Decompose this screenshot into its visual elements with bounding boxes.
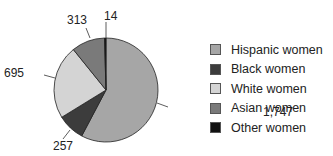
legend-label: Hispanic women (231, 43, 323, 57)
legend-item-hispanic: Hispanic women (210, 40, 323, 60)
legend-swatch (210, 83, 221, 94)
legend-item-asian: Asian women (210, 99, 323, 119)
legend-swatch (210, 44, 221, 55)
data-label-asian: 313 (67, 13, 87, 27)
legend-item-black: Black women (210, 60, 323, 80)
legend-swatch (210, 64, 221, 75)
legend-label: Asian women (231, 101, 306, 115)
data-label-other: 14 (104, 9, 118, 23)
data-label-white: 695 (4, 66, 24, 80)
legend-item-white: White women (210, 79, 323, 99)
legend-swatch (210, 103, 221, 114)
legend-label: Black women (231, 62, 305, 76)
leader-line (86, 28, 90, 38)
legend-swatch (210, 122, 221, 133)
legend-label: Other women (231, 121, 306, 135)
data-label-black: 257 (53, 139, 73, 153)
leader-line (44, 75, 55, 78)
legend-label: White women (231, 82, 307, 96)
leader-line (63, 130, 70, 139)
legend-item-other: Other women (210, 118, 323, 138)
leader-line (157, 103, 168, 107)
legend: Hispanic women Black women White women A… (210, 40, 323, 138)
pie-slices (54, 38, 158, 142)
